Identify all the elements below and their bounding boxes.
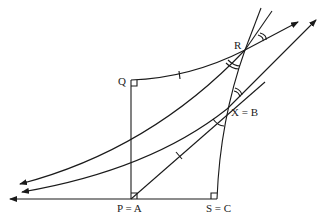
curve-through-x (22, 109, 227, 192)
arc-sr (217, 50, 245, 199)
label-p-a: P = A (117, 203, 142, 214)
angle-mark-r-upper (258, 35, 263, 41)
label-x-b: X = B (231, 107, 258, 118)
curve-through-r (20, 50, 245, 184)
label-q: Q (118, 76, 126, 87)
line-through-r-second (245, 11, 272, 50)
label-s-c: S = C (206, 203, 231, 214)
segment-px-extended (131, 82, 265, 199)
right-angle-q (131, 80, 137, 86)
geometry-figure (0, 0, 326, 219)
right-angle-s (211, 193, 217, 199)
tick-arc-qr (179, 71, 180, 79)
angle-mark-x-upper-2 (234, 91, 240, 97)
diagram-canvas: Q R X = B P = A S = C (0, 0, 326, 219)
line-through-r-steep (245, 8, 261, 50)
label-r: R (234, 40, 241, 51)
